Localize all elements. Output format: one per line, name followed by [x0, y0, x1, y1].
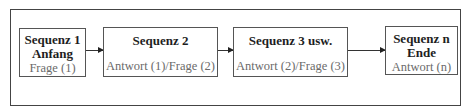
sequence-2-title: Sequenz 2 — [104, 34, 217, 48]
arrow-right-icon — [218, 50, 233, 51]
sequence-box-3: Sequenz 3 usw. Antwort (2)/Frage (3) — [233, 27, 348, 77]
sequence-box-2: Sequenz 2 Antwort (1)/Frage (2) — [103, 27, 218, 77]
sequence-n-title: Sequenz n — [386, 32, 457, 46]
sequence-3-subtitle: Antwort (2)/Frage (3) — [234, 59, 347, 73]
sequence-1-title: Sequenz 1 — [20, 33, 85, 47]
sequence-2-subtitle: Antwort (1)/Frage (2) — [104, 59, 217, 73]
arrow-right-icon — [86, 50, 103, 51]
sequence-box-1: Sequenz 1 Anfang Frage (1) — [19, 28, 86, 77]
sequence-box-n: Sequenz n Ende Antwort (n) — [385, 26, 458, 75]
sequence-n-subtitle: Antwort (n) — [386, 60, 457, 74]
arrow-right-icon — [348, 50, 385, 51]
sequence-n-label-end: Ende — [386, 46, 457, 60]
sequence-1-label-start: Anfang — [20, 47, 85, 61]
sequence-3-title: Sequenz 3 usw. — [234, 34, 347, 48]
sequence-1-subtitle: Frage (1) — [20, 61, 85, 75]
